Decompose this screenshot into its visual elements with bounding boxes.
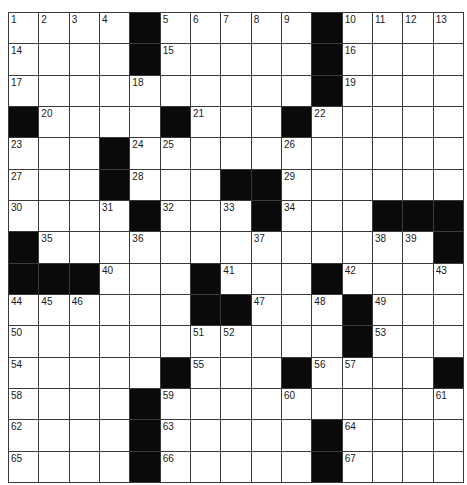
grid-cell[interactable] <box>434 76 464 107</box>
grid-cell[interactable] <box>161 170 191 201</box>
grid-cell[interactable]: 67 <box>343 452 373 483</box>
grid-cell[interactable]: 39 <box>403 232 433 263</box>
grid-cell[interactable] <box>70 358 100 389</box>
grid-cell[interactable] <box>282 420 312 451</box>
grid-cell[interactable] <box>70 326 100 357</box>
grid-cell[interactable] <box>130 326 160 357</box>
grid-cell[interactable]: 11 <box>373 13 403 44</box>
grid-cell[interactable] <box>70 76 100 107</box>
grid-cell[interactable]: 58 <box>9 389 39 420</box>
grid-cell[interactable]: 8 <box>252 13 282 44</box>
grid-cell[interactable] <box>282 295 312 326</box>
grid-cell[interactable] <box>312 326 342 357</box>
grid-cell[interactable] <box>100 326 130 357</box>
grid-cell[interactable]: 18 <box>130 76 160 107</box>
grid-cell[interactable] <box>161 264 191 295</box>
grid-cell[interactable] <box>39 452 69 483</box>
grid-cell[interactable] <box>39 76 69 107</box>
grid-cell[interactable] <box>403 295 433 326</box>
grid-cell[interactable]: 26 <box>282 138 312 169</box>
grid-cell[interactable] <box>252 420 282 451</box>
grid-cell[interactable] <box>191 138 221 169</box>
grid-cell[interactable] <box>403 76 433 107</box>
grid-cell[interactable] <box>373 170 403 201</box>
grid-cell[interactable] <box>252 138 282 169</box>
grid-cell[interactable]: 36 <box>130 232 160 263</box>
grid-cell[interactable]: 43 <box>434 264 464 295</box>
grid-cell[interactable] <box>403 107 433 138</box>
grid-cell[interactable] <box>100 389 130 420</box>
grid-cell[interactable] <box>221 389 251 420</box>
grid-cell[interactable]: 44 <box>9 295 39 326</box>
grid-cell[interactable] <box>373 76 403 107</box>
grid-cell[interactable] <box>312 389 342 420</box>
grid-cell[interactable] <box>39 420 69 451</box>
grid-cell[interactable]: 24 <box>130 138 160 169</box>
grid-cell[interactable] <box>130 295 160 326</box>
grid-cell[interactable]: 4 <box>100 13 130 44</box>
grid-cell[interactable] <box>70 232 100 263</box>
grid-cell[interactable] <box>343 107 373 138</box>
grid-cell[interactable] <box>130 358 160 389</box>
grid-cell[interactable]: 28 <box>130 170 160 201</box>
grid-cell[interactable]: 20 <box>39 107 69 138</box>
grid-cell[interactable] <box>434 107 464 138</box>
grid-cell[interactable]: 54 <box>9 358 39 389</box>
grid-cell[interactable]: 62 <box>9 420 39 451</box>
grid-cell[interactable] <box>252 76 282 107</box>
grid-cell[interactable] <box>221 452 251 483</box>
grid-cell[interactable] <box>70 44 100 75</box>
grid-cell[interactable]: 6 <box>191 13 221 44</box>
grid-cell[interactable]: 33 <box>221 201 251 232</box>
grid-cell[interactable]: 30 <box>9 201 39 232</box>
grid-cell[interactable] <box>70 452 100 483</box>
grid-cell[interactable] <box>373 420 403 451</box>
grid-cell[interactable]: 3 <box>70 13 100 44</box>
grid-cell[interactable]: 29 <box>282 170 312 201</box>
grid-cell[interactable]: 61 <box>434 389 464 420</box>
grid-cell[interactable] <box>221 138 251 169</box>
grid-cell[interactable] <box>252 389 282 420</box>
grid-cell[interactable] <box>403 452 433 483</box>
grid-cell[interactable] <box>100 295 130 326</box>
grid-cell[interactable] <box>282 264 312 295</box>
grid-cell[interactable] <box>191 232 221 263</box>
grid-cell[interactable]: 35 <box>39 232 69 263</box>
grid-cell[interactable] <box>373 107 403 138</box>
grid-cell[interactable]: 51 <box>191 326 221 357</box>
grid-cell[interactable] <box>252 264 282 295</box>
grid-cell[interactable] <box>252 107 282 138</box>
grid-cell[interactable] <box>282 452 312 483</box>
grid-cell[interactable]: 21 <box>191 107 221 138</box>
grid-cell[interactable] <box>221 420 251 451</box>
grid-cell[interactable] <box>130 264 160 295</box>
grid-cell[interactable]: 41 <box>221 264 251 295</box>
grid-cell[interactable] <box>100 452 130 483</box>
grid-cell[interactable] <box>70 107 100 138</box>
grid-cell[interactable] <box>434 420 464 451</box>
grid-cell[interactable] <box>403 420 433 451</box>
grid-cell[interactable] <box>343 170 373 201</box>
grid-cell[interactable] <box>343 201 373 232</box>
grid-cell[interactable] <box>39 138 69 169</box>
grid-cell[interactable] <box>403 264 433 295</box>
grid-cell[interactable] <box>191 76 221 107</box>
grid-cell[interactable]: 52 <box>221 326 251 357</box>
grid-cell[interactable] <box>100 232 130 263</box>
grid-cell[interactable]: 5 <box>161 13 191 44</box>
grid-cell[interactable] <box>343 232 373 263</box>
grid-cell[interactable]: 53 <box>373 326 403 357</box>
grid-cell[interactable]: 56 <box>312 358 342 389</box>
grid-cell[interactable] <box>373 452 403 483</box>
grid-cell[interactable] <box>434 295 464 326</box>
grid-cell[interactable] <box>282 44 312 75</box>
grid-cell[interactable] <box>403 358 433 389</box>
grid-cell[interactable]: 15 <box>161 44 191 75</box>
grid-cell[interactable] <box>39 170 69 201</box>
grid-cell[interactable] <box>252 452 282 483</box>
grid-cell[interactable] <box>343 138 373 169</box>
grid-cell[interactable]: 38 <box>373 232 403 263</box>
grid-cell[interactable] <box>100 44 130 75</box>
grid-cell[interactable] <box>39 389 69 420</box>
grid-cell[interactable] <box>403 389 433 420</box>
